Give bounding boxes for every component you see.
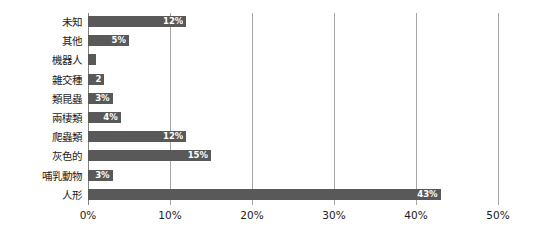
bar-row: [88, 51, 498, 70]
bar-row: 15%: [88, 147, 498, 166]
gridline-50: [498, 13, 499, 205]
x-tick-label: 10%: [140, 209, 200, 221]
bar-value-label: 4%: [88, 111, 118, 123]
category-label: 灰色的: [0, 147, 82, 166]
x-tick-label: 20%: [222, 209, 282, 221]
category-label: 哺乳動物: [0, 167, 82, 186]
x-tick-label: 0%: [58, 209, 118, 221]
bar-value-label: 5%: [88, 34, 126, 46]
bar-row: 2: [88, 71, 498, 90]
bar-value-label: 2: [88, 73, 101, 85]
bar-value-label: 12%: [88, 130, 183, 142]
bar-row: 12%: [88, 128, 498, 147]
category-label: 爬蟲類: [0, 128, 82, 147]
category-label: 機器人: [0, 51, 82, 70]
category-label: 未知: [0, 13, 82, 32]
bar-value-label: 15%: [88, 149, 208, 161]
bar-row: 3%: [88, 167, 498, 186]
bar-row: 5%: [88, 32, 498, 51]
bar: [88, 54, 96, 65]
bar-value-label: 43%: [88, 188, 438, 200]
x-tick-label: 40%: [386, 209, 446, 221]
bar-value-label: 3%: [88, 92, 110, 104]
plot-area: 12%5%23%4%12%15%3%43%: [88, 13, 498, 205]
category-label: 類昆蟲: [0, 90, 82, 109]
bar-value-label: 3%: [88, 169, 110, 181]
bar-value-label: 12%: [88, 15, 183, 27]
category-label: 人形: [0, 186, 82, 205]
bar-row: 12%: [88, 13, 498, 32]
x-tick-label: 50%: [468, 209, 528, 221]
category-label: 其他: [0, 32, 82, 51]
category-label: 雜交種: [0, 71, 82, 90]
bar-row: 3%: [88, 90, 498, 109]
bar-chart: 12%5%23%4%12%15%3%43% (function(){ const…: [0, 0, 533, 244]
bar-row: 43%: [88, 186, 498, 205]
x-tick-label: 30%: [304, 209, 364, 221]
bar-row: 4%: [88, 109, 498, 128]
category-label: 兩棲類: [0, 109, 82, 128]
